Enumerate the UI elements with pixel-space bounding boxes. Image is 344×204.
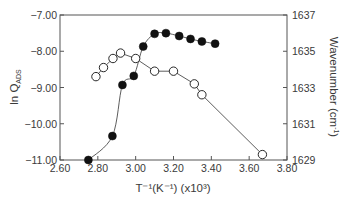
series-lines [88,33,262,160]
data-point-filled [162,29,170,37]
y-tick-label: −7.00 [30,9,57,21]
x-tick-label: 3.40 [201,162,222,174]
data-point-open [190,80,198,88]
data-point-open [116,49,124,57]
y-tick-label: −11.00 [25,154,57,166]
y2-axis-title-main: Wavenumber (cm [328,37,340,127]
x-tick-label: 2.80 [88,162,109,174]
y-axis-title: ln QADS [8,69,22,105]
y2-tick-label: 1629 [292,154,316,166]
data-point-open [198,91,206,99]
data-point-open [131,54,139,62]
y2-axis-title: Wavenumber (cm-1) [328,37,340,138]
y-axis-ticks: −7.00−8.00−9.00−10.00−11.00 [25,9,64,166]
series-line [88,33,215,160]
data-point-filled [130,72,138,80]
data-point-filled [118,81,126,89]
chart: 2.602.803.003.203.403.603.80 −7.00−8.00−… [0,0,344,204]
data-point-filled [84,156,92,164]
data-point-open [169,67,177,75]
y-tick-label: −10.00 [25,118,58,130]
data-point-open [92,72,100,80]
series-line [96,53,262,155]
y2-tick-label: 1635 [292,45,316,57]
x-tick-label: 3.00 [125,162,146,174]
x-tick-label: 3.20 [163,162,184,174]
y-axis-title-main: ln Q [8,84,20,105]
y-tick-label: −8.00 [30,45,57,57]
y2-axis-ticks: 16371635163316311629 [283,9,316,166]
y2-axis-title-end: ) [328,133,340,137]
data-point-open [99,63,107,71]
data-point-filled [187,35,195,43]
y2-tick-label: 1631 [292,118,316,130]
y2-tick-label: 1633 [292,82,316,94]
data-point-filled [151,30,159,38]
y2-tick-label: 1637 [292,9,316,21]
y-axis-title-sub: ADS [15,69,22,84]
data-point-filled [139,43,147,51]
data-point-filled [211,40,219,48]
data-point-filled [198,37,206,45]
x-axis-title: T⁻¹(K⁻¹) (x10³) [135,182,210,194]
data-point-open [109,54,117,62]
plot-frame [60,15,287,160]
data-point-filled [108,132,116,140]
data-point-open [150,67,158,75]
x-tick-label: 3.60 [239,162,260,174]
series-markers [84,29,266,164]
y-tick-label: −9.00 [30,82,57,94]
data-point-filled [175,32,183,40]
data-point-open [258,150,266,158]
